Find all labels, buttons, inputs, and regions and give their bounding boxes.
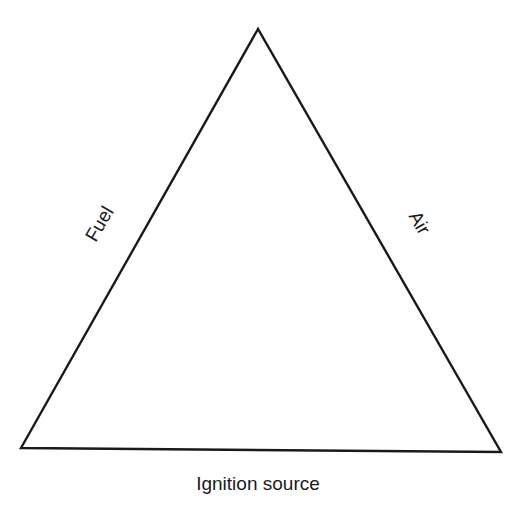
fire-triangle-diagram: Fuel Air Ignition source [0,0,519,508]
label-air: Air [405,207,435,238]
label-fuel: Fuel [81,202,118,245]
label-ignition-source: Ignition source [196,473,320,494]
